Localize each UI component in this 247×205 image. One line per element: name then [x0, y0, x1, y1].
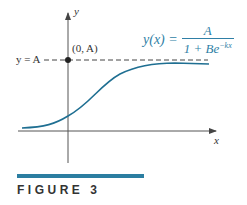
y-axis-label: y — [74, 5, 79, 17]
point-label: (0, A) — [72, 42, 98, 54]
formula-fraction: A 1 + Be−kx — [182, 24, 234, 56]
caption-accent-bar — [17, 174, 144, 178]
asymptote-label: y = A — [16, 53, 41, 65]
formula-denominator: 1 + Be−kx — [182, 38, 234, 56]
point-0-A — [65, 57, 71, 63]
logistic-formula: y(x) = A 1 + Be−kx — [143, 24, 234, 56]
formula-numerator: A — [200, 24, 216, 38]
denominator-base: 1 + Be — [184, 41, 219, 56]
figure-caption: FIGURE 3 — [17, 183, 100, 197]
formula-lhs: y(x) = — [143, 32, 178, 48]
x-axis-label: x — [214, 134, 219, 146]
logistic-curve — [22, 63, 209, 128]
denominator-exponent: −kx — [219, 41, 232, 50]
